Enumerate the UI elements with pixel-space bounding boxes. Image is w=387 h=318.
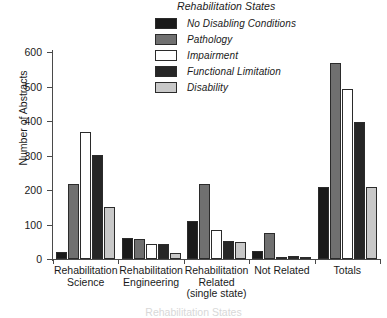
x-axis-tick-label: Totals — [315, 265, 380, 300]
x-axis-tick-labels: RehabilitationScienceRehabilitationEngin… — [53, 265, 380, 300]
x-axis-tick — [249, 259, 250, 264]
bar[interactable] — [199, 184, 210, 259]
bar[interactable] — [170, 253, 181, 259]
x-axis-tick-label-line: Rehabilitation — [184, 265, 249, 277]
legend-item-label: No Disabling Conditions — [187, 18, 296, 29]
bar[interactable] — [252, 251, 263, 259]
x-axis-tick-label-line: Rehabilitation — [118, 265, 183, 277]
x-axis-title: Rehabilitation States — [0, 306, 387, 318]
bar[interactable] — [122, 238, 133, 259]
x-axis-tick-label: RehabilitationRelated(single state) — [184, 265, 249, 300]
x-axis-tick-label-line: Totals — [315, 265, 380, 277]
y-axis-tick-label: 300 — [2, 151, 42, 161]
legend-item-label: Pathology — [187, 34, 232, 45]
x-axis-tick-label: RehabilitationScience — [53, 265, 118, 300]
x-axis-line — [52, 259, 381, 260]
bar-groups — [53, 52, 380, 259]
bar[interactable] — [80, 132, 91, 259]
bar[interactable] — [235, 242, 246, 259]
x-axis-tick — [380, 259, 381, 264]
x-axis-tick-label: RehabilitationEngineering — [118, 265, 183, 300]
bar[interactable] — [330, 63, 341, 259]
bar-group — [118, 52, 183, 259]
bar-group — [53, 52, 118, 259]
x-axis-tick-label-line: (single state) — [184, 288, 249, 300]
legend-swatch-icon — [155, 18, 177, 29]
bar[interactable] — [92, 155, 103, 259]
bar[interactable] — [223, 241, 234, 259]
bar[interactable] — [300, 257, 311, 259]
y-axis-tick-label: 500 — [2, 82, 42, 92]
y-axis-tick-label: 400 — [2, 116, 42, 126]
bar[interactable] — [288, 256, 299, 259]
x-axis-tick — [315, 259, 316, 264]
x-axis-tick-label-line: Science — [53, 277, 118, 289]
x-axis-tick-label-line: Rehabilitation — [53, 265, 118, 277]
legend-title: Rehabilitation States — [155, 0, 387, 12]
bar[interactable] — [158, 244, 169, 259]
bar[interactable] — [354, 122, 365, 259]
legend-item[interactable]: Pathology — [155, 31, 387, 47]
bar-group — [249, 52, 314, 259]
bar[interactable] — [276, 257, 287, 259]
bar[interactable] — [366, 187, 377, 259]
bar[interactable] — [264, 233, 275, 259]
bar[interactable] — [146, 244, 157, 259]
bar[interactable] — [342, 89, 353, 259]
bar[interactable] — [56, 252, 67, 259]
y-axis-tick-label: 200 — [2, 185, 42, 195]
legend-item[interactable]: No Disabling Conditions — [155, 15, 387, 31]
y-axis-tick-label: 600 — [2, 47, 42, 57]
bar[interactable] — [318, 187, 329, 259]
bar[interactable] — [187, 221, 198, 259]
x-axis-tick-label-line: Not Related — [249, 265, 314, 277]
x-axis-tick-label-line: Engineering — [118, 277, 183, 289]
bar-group — [184, 52, 249, 259]
bar[interactable] — [68, 184, 79, 259]
x-axis-tick-label: Not Related — [249, 265, 314, 300]
y-axis-tick-label: 100 — [2, 220, 42, 230]
bar-group — [315, 52, 380, 259]
y-axis-tick-label: 0 — [2, 254, 42, 264]
bar[interactable] — [134, 239, 145, 259]
legend-swatch-icon — [155, 34, 177, 45]
bar[interactable] — [104, 207, 115, 259]
bar[interactable] — [211, 230, 222, 259]
